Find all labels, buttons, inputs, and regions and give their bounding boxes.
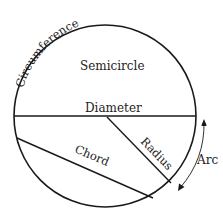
- diameter-label: Diameter: [85, 101, 142, 115]
- arc-arrowhead-bottom-icon: [178, 184, 185, 192]
- circle-diagram: Circumference Semicircle Diameter Radius…: [0, 0, 223, 220]
- arc-label: Arc: [196, 153, 218, 167]
- arc-arrowhead-top-icon: [202, 119, 207, 126]
- semicircle-label: Semicircle: [80, 59, 145, 73]
- diagram-svg: Circumference Semicircle Diameter Radius…: [0, 0, 223, 220]
- circumference-label: Circumference: [12, 16, 80, 90]
